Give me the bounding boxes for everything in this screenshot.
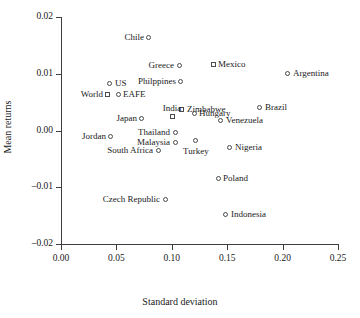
x-axis-line [61, 244, 339, 245]
data-point-label: Chile [124, 33, 144, 42]
data-point-label: Czech Republic [103, 195, 160, 204]
data-point-marker [156, 148, 161, 153]
x-tick [283, 245, 284, 250]
x-tick [172, 245, 173, 250]
x-tick [61, 245, 62, 250]
data-point-label: Japan [116, 114, 137, 123]
data-point-label: World [81, 90, 103, 99]
data-point-marker [173, 140, 178, 145]
scatter-plot: 0.020.010.00–0.01–0.02 0.000.050.100.150… [0, 0, 360, 318]
data-point-label: Brazil [265, 103, 287, 112]
data-point-label: Mexico [218, 60, 246, 69]
data-point-label: Turkey [183, 147, 209, 156]
data-point-marker [211, 62, 216, 67]
data-point-label: Poland [223, 174, 248, 183]
x-tick-label: 0.25 [318, 254, 358, 264]
x-tick [338, 245, 339, 250]
data-point-label: Indonesia [231, 210, 266, 219]
x-tick-label: 0.15 [207, 254, 247, 264]
data-point-label: Argentina [293, 69, 329, 78]
data-point-label: India [163, 104, 182, 113]
data-point-label: Greece [149, 61, 174, 70]
data-point-label: EAFE [123, 90, 146, 99]
y-tick-label: –0.01 [19, 182, 53, 192]
data-point-marker [163, 197, 168, 202]
data-point-label: Philppines [138, 77, 176, 86]
data-point-label: US [115, 79, 127, 88]
data-point-marker [105, 92, 110, 97]
x-tick [227, 245, 228, 250]
x-tick-label: 0.20 [263, 254, 303, 264]
data-point-label: Nigeria [235, 143, 262, 152]
y-tick-label: 0.01 [19, 69, 53, 79]
y-tick-label: 0.02 [19, 12, 53, 22]
x-tick-label: 0.05 [96, 254, 136, 264]
data-point-label: South Africa [107, 146, 153, 155]
y-axis-title: Mean returns [3, 67, 13, 187]
x-tick [116, 245, 117, 250]
data-point-label: Jordan [82, 132, 106, 141]
y-tick-label: –0.02 [19, 239, 53, 249]
data-point-label: Venezuela [226, 116, 263, 125]
data-point-marker [192, 111, 197, 116]
y-tick-label: 0.00 [19, 126, 53, 136]
data-point-marker [170, 114, 175, 119]
x-axis-title: Standard deviation [0, 297, 360, 307]
x-tick-label: 0.10 [152, 254, 192, 264]
x-tick-label: 0.00 [41, 254, 81, 264]
